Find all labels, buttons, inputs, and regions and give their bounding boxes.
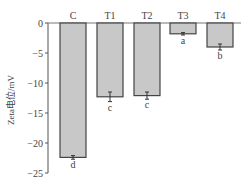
- significance-letter: c: [108, 102, 113, 113]
- y-axis-ticks: 0−5−10−15−20−25: [27, 18, 48, 179]
- y-tick-label: −5: [32, 48, 43, 59]
- significance-letter: a: [181, 35, 186, 46]
- bar-rect: [97, 23, 123, 97]
- y-tick-label: −15: [27, 108, 43, 119]
- bar-chart: 0−5−10−15−20−25 CdT1cT2cT3aT4b Zeta电位/mV: [0, 0, 252, 191]
- category-label: T3: [177, 10, 188, 21]
- category-label: T1: [104, 10, 115, 21]
- bar-t2: T2c: [134, 10, 160, 110]
- bar-t4: T4b: [207, 10, 233, 61]
- bars-group: CdT1cT2cT3aT4b: [60, 10, 233, 170]
- significance-letter: d: [71, 159, 76, 170]
- y-tick-label: −10: [27, 78, 43, 89]
- bar-rect: [134, 23, 160, 96]
- y-tick-label: −20: [27, 138, 43, 149]
- bar-rect: [60, 23, 86, 157]
- significance-letter: c: [145, 99, 150, 110]
- category-label: T2: [141, 10, 152, 21]
- category-label: C: [70, 10, 77, 21]
- category-label: T4: [214, 10, 225, 21]
- y-axis-label: Zeta电位/mV: [5, 75, 16, 125]
- y-tick-label: 0: [38, 18, 43, 29]
- y-tick-label: −25: [27, 168, 43, 179]
- bar-rect: [207, 23, 233, 47]
- bar-t1: T1c: [97, 10, 123, 113]
- significance-letter: b: [218, 50, 223, 61]
- bar-c: Cd: [60, 10, 86, 170]
- bar-t3: T3a: [170, 10, 196, 46]
